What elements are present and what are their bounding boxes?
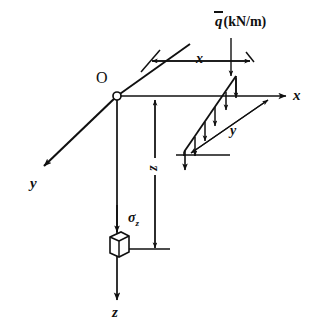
stress-element-label: σz: [128, 211, 139, 228]
y-axis-label: y: [30, 176, 37, 191]
load-strip-group: [176, 76, 236, 170]
x-dimension-label: x: [196, 52, 203, 66]
z-dimension-label: z: [146, 165, 160, 170]
z-axis-label: z: [112, 305, 118, 320]
diagram-svg: [0, 0, 325, 333]
origin-marker: [113, 92, 121, 100]
y-axis-line: [44, 96, 117, 166]
x-axis-label: x: [293, 88, 301, 103]
load-units: (kN/m): [224, 14, 267, 29]
load-symbol: q: [214, 13, 224, 29]
sigma-symbol: σ: [128, 210, 136, 225]
sigma-subscript: z: [136, 218, 140, 228]
figure-canvas: O x y z x y z q(kN/m) σz: [0, 0, 325, 333]
load-label: q(kN/m): [214, 14, 266, 29]
origin-label: O: [96, 70, 108, 86]
stress-cube-group: [110, 232, 129, 257]
y-dimension-label: y: [230, 124, 236, 138]
y-axis-back-segment: [117, 44, 190, 96]
